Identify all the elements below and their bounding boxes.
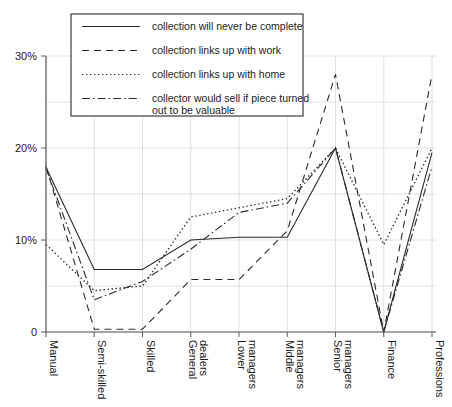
chart-legend: collection will never be completecollect… xyxy=(71,14,309,116)
x-tick-label: managers xyxy=(295,340,307,389)
x-tick-label: General xyxy=(187,340,199,379)
legend-label-0: collection will never be complete xyxy=(152,20,303,32)
x-tick-label: Finance xyxy=(386,340,398,379)
legend-label-2: collection links up with home xyxy=(152,68,285,80)
chart-canvas: 010%20%30% ManualSemi-skilledSkilledGene… xyxy=(0,0,452,407)
legend-label-3: collector would sell if piece turned xyxy=(152,92,309,104)
x-tick-label: Semi-skilled xyxy=(96,340,108,399)
y-tick-label: 20% xyxy=(15,142,37,154)
x-tick-label: Skilled xyxy=(145,340,157,372)
x-axis-ticks: ManualSemi-skilledSkilledGeneraldealersL… xyxy=(46,332,446,399)
x-tick-label: Middle xyxy=(284,340,296,372)
x-tick-label: Manual xyxy=(48,340,60,376)
x-tick-label: managers xyxy=(247,340,259,389)
y-tick-label: 30% xyxy=(15,50,37,62)
y-tick-label: 10% xyxy=(15,234,37,246)
legend-label-1: collection links up with work xyxy=(152,44,282,56)
legend-label-4: out to be valuable xyxy=(152,104,235,116)
y-tick-label: 0 xyxy=(31,326,37,338)
x-tick-label: dealers xyxy=(198,340,210,377)
x-tick-label: Professions xyxy=(434,340,446,398)
line-chart: 010%20%30% ManualSemi-skilledSkilledGene… xyxy=(0,0,452,407)
y-axis-ticks: 010%20%30% xyxy=(15,50,46,338)
x-tick-label: managers xyxy=(343,340,355,389)
x-tick-label: Senior xyxy=(332,340,344,372)
x-tick-label: Lower xyxy=(236,340,248,370)
